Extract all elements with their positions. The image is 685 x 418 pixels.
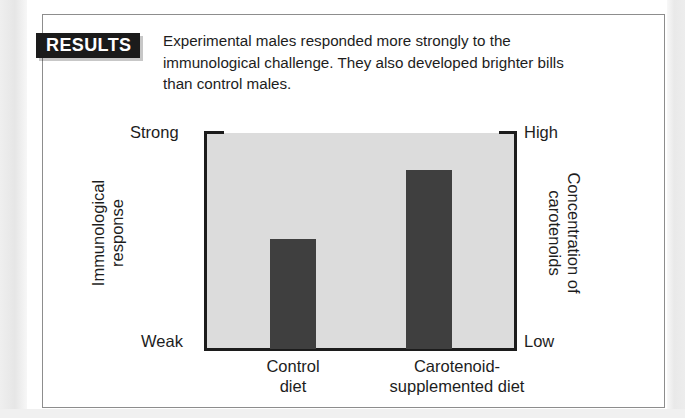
y-axis-right-title-line-1: Concentration of [564,125,583,341]
x-axis-line [204,348,517,351]
y-axis-left-title: Immunological response [89,125,127,341]
page-edge-left [0,0,27,418]
x-axis-category-control-line-2: diet [233,376,353,396]
figure-page: RESULTS Experimental males responded mor… [0,0,685,418]
x-axis-category-control: Control diet [233,356,353,396]
y-axis-left-line [204,131,207,351]
x-axis-category-control-line-1: Control [233,356,353,376]
results-tag: RESULTS [36,33,140,58]
y-axis-right-title: Concentration of carotenoids [545,125,583,341]
y-axis-left-title-line-2: response [108,125,127,341]
page-edge-right [667,0,685,418]
y-axis-tick-weak: Weak [141,332,183,351]
plot-area [206,133,516,349]
y-axis-right-line [514,131,517,351]
figure-caption: Experimental males responded more strong… [163,30,583,95]
x-axis-category-carotenoid-line-2: supplemented diet [347,376,567,396]
axis-bracket-top-left [206,131,224,134]
bar-carotenoid-diet [406,170,452,349]
page-edge-bottom [0,409,685,418]
y-axis-tick-strong: Strong [130,123,179,142]
y-axis-right-title-line-2: carotenoids [545,125,564,341]
y-axis-left-title-line-1: Immunological [89,125,108,341]
bar-chart: Strong Weak High Low Immunological respo… [42,118,665,408]
x-axis-category-carotenoid: Carotenoid- supplemented diet [347,356,567,396]
x-axis-category-carotenoid-line-1: Carotenoid- [347,356,567,376]
bar-control-diet [270,239,316,349]
